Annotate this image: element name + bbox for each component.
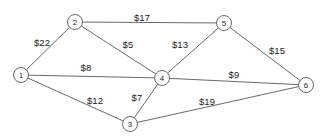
graph-edge-2-4 bbox=[81, 26, 155, 74]
edge-weight-label-1-4: $8 bbox=[81, 62, 92, 73]
weighted-graph-diagram: 123456 $22$17$5$13$15$8$12$7$9$19 bbox=[0, 0, 324, 139]
node-label-3: 3 bbox=[128, 120, 133, 129]
edge-weight-label-2-4: $5 bbox=[123, 39, 134, 50]
edge-weight-label-1-2: $22 bbox=[34, 37, 50, 48]
graph-edge-1-4 bbox=[29, 75, 155, 78]
graph-canvas: 123456 $22$17$5$13$15$8$12$7$9$19 bbox=[0, 0, 324, 139]
graph-node-5: 5 bbox=[217, 16, 232, 31]
graph-edge-3-6 bbox=[137, 87, 298, 123]
node-label-6: 6 bbox=[304, 81, 309, 90]
graph-edge-5-6 bbox=[230, 28, 300, 81]
graph-edge-4-5 bbox=[168, 28, 219, 73]
edge-weight-label-2-5: $17 bbox=[134, 12, 150, 23]
graph-node-3: 3 bbox=[123, 117, 138, 132]
edge-weight-label-3-4: $7 bbox=[132, 92, 143, 103]
graph-node-1: 1 bbox=[14, 68, 29, 83]
nodes-layer: 123456 bbox=[14, 15, 314, 132]
edge-weight-label-4-5: $13 bbox=[172, 39, 188, 50]
graph-node-2: 2 bbox=[68, 15, 83, 30]
edge-weight-label-5-6: $15 bbox=[269, 45, 285, 56]
node-label-4: 4 bbox=[160, 74, 165, 83]
edge-weight-label-4-6: $9 bbox=[229, 69, 240, 80]
edge-weight-label-3-6: $19 bbox=[199, 96, 215, 107]
graph-node-4: 4 bbox=[155, 71, 170, 86]
graph-node-6: 6 bbox=[299, 78, 314, 93]
graph-edge-1-3 bbox=[28, 78, 123, 121]
node-label-2: 2 bbox=[73, 18, 78, 27]
edge-weight-label-1-3: $12 bbox=[87, 95, 103, 106]
graph-edge-1-2 bbox=[26, 27, 69, 70]
node-label-1: 1 bbox=[19, 71, 24, 80]
node-label-5: 5 bbox=[222, 19, 227, 28]
